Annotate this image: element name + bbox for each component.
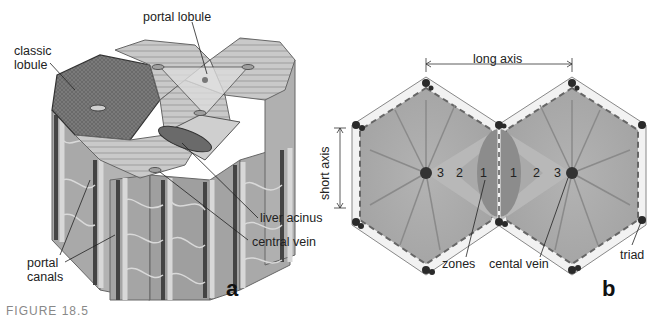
- zone-number: 3: [554, 166, 561, 180]
- zone-number: 1: [510, 166, 517, 180]
- label-portal-canals: portal canals: [27, 256, 63, 284]
- panel-letter-b: b: [602, 276, 615, 302]
- label-portal-lobule: portal lobule: [143, 10, 211, 24]
- label-classic-lobule: classic lobule: [14, 44, 52, 72]
- label-triad: triad: [620, 248, 644, 262]
- liver-lobule-figure: classic lobule portal lobule liver acinu…: [0, 0, 663, 318]
- label-short-axis: short axis: [318, 147, 332, 201]
- figure-caption: FIGURE 18.5: [6, 304, 89, 318]
- label-central-vein-a: central vein: [252, 235, 316, 249]
- label-central-vein-b: cental vein: [489, 257, 549, 271]
- zone-number: 3: [437, 166, 444, 180]
- label-liver-acinus: liver acinus: [260, 211, 323, 225]
- short-axis-arrow: [334, 128, 346, 208]
- zone-number: 1: [480, 166, 487, 180]
- label-zones: zones: [442, 257, 475, 271]
- panel-letter-a: a: [226, 276, 238, 302]
- zone-number: 2: [533, 166, 540, 180]
- label-long-axis: long axis: [473, 52, 522, 66]
- zone-number: 2: [456, 166, 463, 180]
